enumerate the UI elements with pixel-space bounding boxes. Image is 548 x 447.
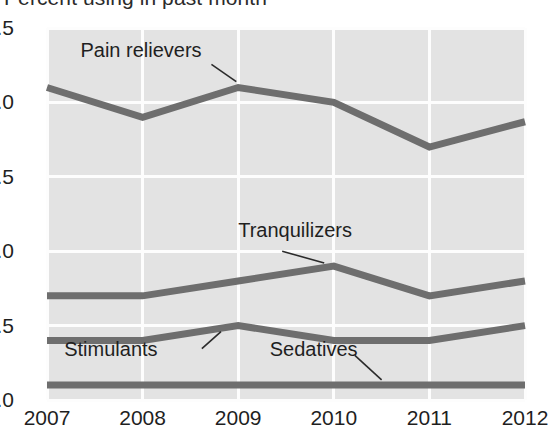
y-axis-tick-label: 0.0 — [0, 388, 14, 412]
x-axis-tick-label: 2007 — [24, 406, 71, 430]
gridline-vertical — [524, 28, 527, 400]
gridline-vertical — [237, 28, 240, 400]
chart-title: Percent using in past month — [4, 0, 267, 10]
gridline-horizontal — [47, 324, 525, 327]
series-label-sedatives: Sedatives — [270, 338, 358, 361]
y-axis-tick-label: 0.5 — [0, 314, 14, 338]
gridline-horizontal — [47, 250, 525, 253]
x-axis-tick-label: 2012 — [502, 406, 548, 430]
gridline-vertical — [428, 28, 431, 400]
gridline-horizontal — [47, 101, 525, 104]
y-axis-tick-label: 2.5 — [0, 16, 14, 40]
x-axis-tick-label: 2008 — [119, 406, 166, 430]
series-label-pain-relievers: Pain relievers — [80, 39, 201, 62]
gridline-horizontal — [47, 399, 525, 402]
gridline-vertical — [46, 28, 49, 400]
gridline-horizontal — [47, 27, 525, 30]
y-axis-tick-label: 2.0 — [0, 90, 14, 114]
y-axis-tick-label: 1.0 — [0, 239, 14, 263]
x-axis-tick-label: 2010 — [310, 406, 357, 430]
gridline-horizontal — [47, 175, 525, 178]
series-label-tranquilizers: Tranquilizers — [238, 219, 352, 242]
x-axis-tick-label: 2009 — [215, 406, 262, 430]
series-label-stimulants: Stimulants — [64, 338, 157, 361]
x-axis-tick-label: 2011 — [407, 406, 452, 430]
y-axis-tick-label: 1.5 — [0, 165, 14, 189]
